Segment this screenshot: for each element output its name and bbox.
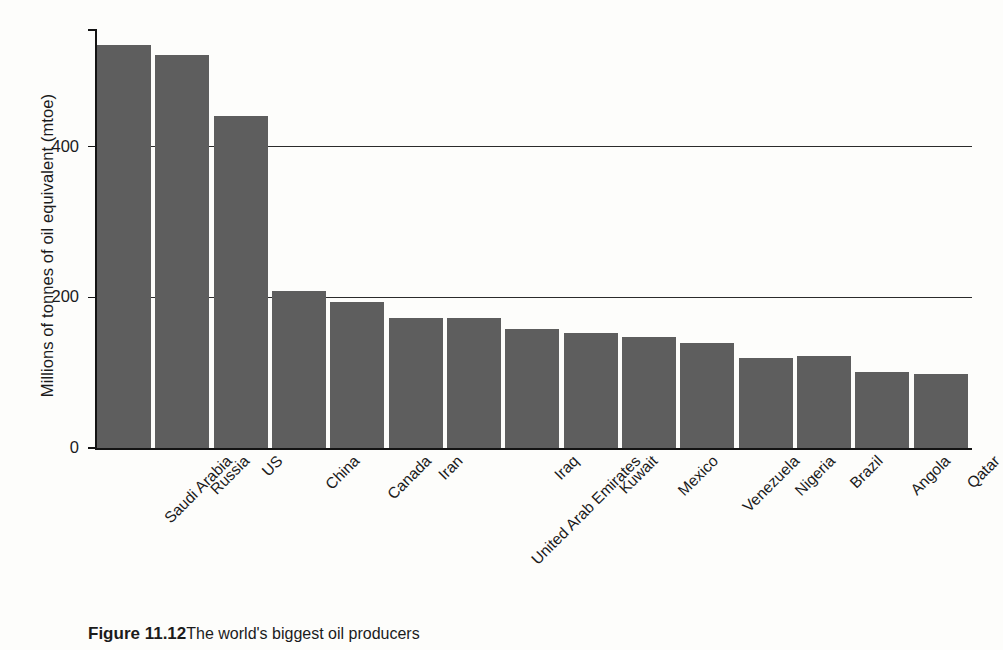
y-tick-200: 200: [88, 297, 97, 299]
bar: [97, 45, 151, 448]
bar: [214, 116, 268, 448]
bar: [855, 372, 909, 448]
bar: [272, 291, 326, 448]
y-tick-label-200: 200: [51, 287, 79, 306]
bar: [739, 358, 793, 448]
bar: [914, 374, 968, 448]
y-tick-label-400: 400: [51, 137, 79, 156]
x-axis-label: Qatar: [963, 452, 1003, 492]
y-axis-top-cap: [88, 29, 97, 31]
y-tick-400: 400: [88, 146, 97, 148]
bar: [564, 333, 618, 448]
x-axis-line: [95, 448, 972, 450]
x-axis-category-labels: Saudi ArabiaRussiaUSChinaCanadaIranUnite…: [97, 452, 977, 602]
x-axis-label: Angola: [908, 452, 955, 499]
x-axis-label: United Arab Emirates: [528, 452, 644, 568]
x-axis-label: Iran: [435, 452, 467, 484]
x-axis-label: US: [258, 452, 286, 480]
x-axis-label: Canada: [384, 452, 435, 503]
bar-series: [97, 30, 972, 448]
bar: [680, 343, 734, 448]
x-axis-label: China: [322, 452, 363, 493]
bar: [155, 55, 209, 448]
figure-caption: Figure 11.12The world's biggest oil prod…: [88, 624, 968, 644]
bar: [389, 318, 443, 448]
bar: [330, 302, 384, 448]
bar: [797, 356, 851, 448]
y-tick-label-0: 0: [70, 438, 79, 457]
plot-area: 0200400: [97, 30, 972, 448]
x-axis-label: Iraq: [551, 452, 583, 484]
figure-caption-label: Figure 11.12: [88, 624, 186, 643]
bar: [447, 318, 501, 448]
bar: [505, 329, 559, 448]
bar: [622, 337, 676, 448]
x-axis-label: Brazil: [846, 452, 886, 492]
y-tick-0: 0: [88, 447, 97, 449]
figure-caption-text: The world's biggest oil producers: [186, 625, 419, 642]
y-axis-title: Millions of tonnes of oil equivalent (mt…: [38, 31, 57, 461]
x-axis-label: Mexico: [674, 452, 721, 499]
